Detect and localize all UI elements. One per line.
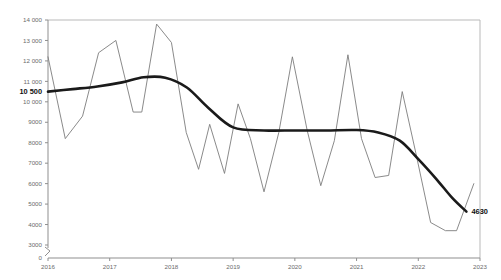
- y-axis-tick-label: 7000: [28, 159, 42, 166]
- x-axis-tick-label: 2018: [165, 263, 179, 270]
- x-axis-tick-label: 2023: [473, 263, 487, 270]
- y-axis-tick-label: 8000: [28, 139, 42, 146]
- y-axis-tick-label: 6000: [28, 180, 42, 187]
- line-chart: 14 00013 00012 00011 00010 0009000800070…: [0, 0, 501, 280]
- y-axis-tick-label: 4000: [28, 221, 42, 228]
- y-axis-tick-label: 14 000: [23, 16, 42, 23]
- series-end-value-label: 4630: [471, 207, 487, 216]
- x-axis-tick-label: 2021: [350, 263, 364, 270]
- x-axis-tick-label: 2019: [226, 263, 240, 270]
- y-axis-tick-label: 13 000: [23, 37, 42, 44]
- x-axis-tick-label: 2017: [103, 263, 117, 270]
- y-axis-tick-label: 12 000: [23, 57, 42, 64]
- y-axis-tick-label: 11 000: [24, 78, 43, 85]
- chart-container: 14 00013 00012 00011 00010 0009000800070…: [0, 0, 501, 280]
- y-axis-tick-label: 9000: [28, 118, 42, 125]
- y-axis-zero-label: 0: [39, 254, 43, 261]
- x-axis-tick-label: 2020: [288, 263, 302, 270]
- x-axis-tick-label: 2022: [411, 263, 425, 270]
- y-axis-tick-label: 3000: [28, 241, 42, 248]
- y-axis-tick-label: 10 000: [23, 98, 42, 105]
- series-start-value-label: 10 500: [19, 87, 42, 96]
- x-axis-tick-label: 2016: [41, 263, 55, 270]
- y-axis-tick-label: 5000: [28, 200, 42, 207]
